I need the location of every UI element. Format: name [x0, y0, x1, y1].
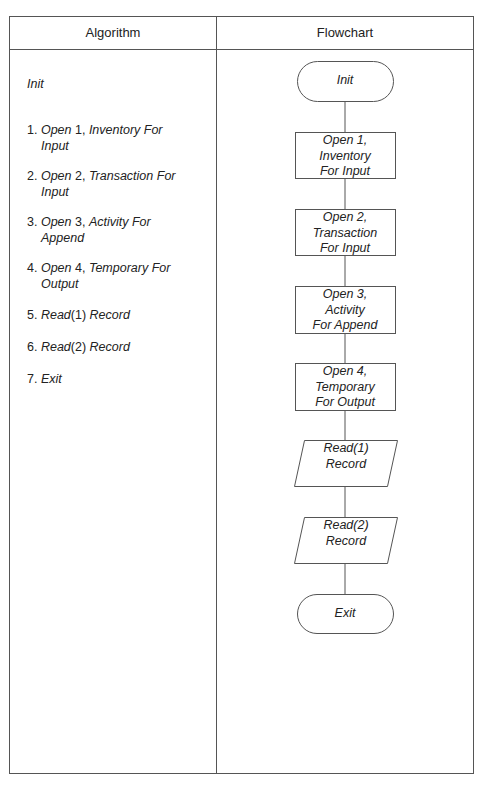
io-read-1-label: Read(1) Record — [296, 441, 396, 472]
io-read-2-label: Read(2) Record — [296, 518, 396, 549]
process-open-4-label: Open 4, Temporary For Output — [295, 364, 395, 411]
terminator-exit-label: Exit — [297, 606, 393, 622]
process-open-3-label: Open 3, Activity For Append — [295, 287, 395, 334]
process-open-2-label: Open 2, Transaction For Input — [295, 210, 395, 257]
flowchart-diagram — [0, 0, 487, 788]
process-open-1-label: Open 1, Inventory For Input — [295, 133, 395, 180]
terminator-init-label: Init — [297, 73, 393, 89]
